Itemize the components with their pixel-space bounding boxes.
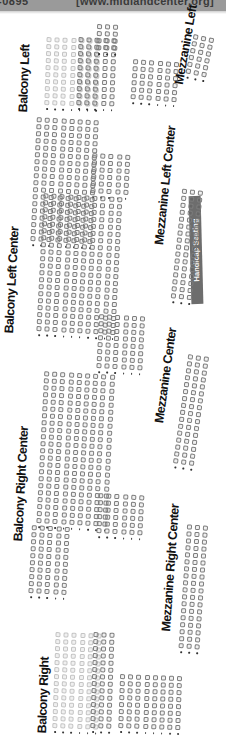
seat[interactable] (115, 329, 120, 334)
seat[interactable] (67, 208, 72, 213)
seat[interactable] (59, 153, 64, 158)
seat[interactable] (143, 724, 148, 729)
seat[interactable] (55, 547, 60, 552)
seat[interactable] (62, 59, 67, 64)
seat[interactable] (148, 81, 153, 86)
seat[interactable] (197, 204, 202, 209)
seat[interactable] (87, 294, 92, 299)
seat[interactable] (54, 491, 59, 496)
seat[interactable] (48, 526, 53, 531)
seat[interactable] (193, 560, 198, 565)
seat[interactable] (123, 183, 128, 188)
seat[interactable] (74, 237, 79, 242)
seat[interactable] (43, 146, 48, 151)
seat[interactable] (106, 507, 111, 512)
seat[interactable] (50, 215, 55, 220)
seat[interactable] (44, 100, 49, 105)
seat[interactable] (97, 349, 102, 354)
seat[interactable] (45, 504, 50, 509)
seat[interactable] (144, 696, 149, 701)
seat[interactable] (69, 373, 74, 378)
seat[interactable] (131, 330, 136, 335)
seat[interactable] (59, 201, 64, 206)
seat[interactable] (60, 723, 65, 728)
seat[interactable] (200, 574, 205, 579)
seat[interactable] (80, 464, 85, 469)
seat[interactable] (81, 443, 86, 448)
seat[interactable] (194, 532, 199, 537)
seat[interactable] (92, 388, 97, 393)
seat[interactable] (61, 702, 66, 707)
seat[interactable] (97, 273, 102, 278)
seat[interactable] (45, 312, 50, 317)
seat[interactable] (91, 174, 96, 179)
seat[interactable] (69, 133, 74, 138)
seat[interactable] (93, 632, 98, 637)
seat[interactable] (90, 437, 95, 442)
seat[interactable] (56, 526, 61, 531)
seat[interactable] (41, 181, 46, 186)
seat[interactable] (47, 285, 52, 290)
seat[interactable] (50, 181, 55, 186)
seat[interactable] (63, 639, 68, 644)
seat[interactable] (87, 301, 92, 306)
seat[interactable] (59, 208, 64, 213)
seat[interactable] (180, 210, 185, 215)
seat[interactable] (152, 682, 157, 687)
seat[interactable] (99, 409, 104, 414)
seat[interactable] (70, 506, 75, 511)
seat[interactable] (105, 459, 110, 464)
seat[interactable] (85, 134, 90, 139)
seat[interactable] (97, 514, 102, 519)
seat[interactable] (85, 86, 90, 91)
seat[interactable] (106, 253, 111, 258)
seat[interactable] (34, 159, 39, 164)
seat[interactable] (43, 200, 48, 205)
seat[interactable] (76, 147, 81, 152)
seat[interactable] (63, 562, 68, 567)
seat[interactable] (78, 307, 83, 312)
seat[interactable] (144, 703, 149, 708)
seat[interactable] (63, 484, 68, 489)
seat[interactable] (183, 259, 188, 264)
seat[interactable] (78, 696, 83, 701)
seat[interactable] (107, 417, 112, 422)
seat[interactable] (53, 505, 58, 510)
seat[interactable] (202, 539, 207, 544)
seat[interactable] (196, 355, 202, 361)
seat[interactable] (140, 316, 145, 321)
seat[interactable] (74, 422, 79, 427)
seat[interactable] (173, 69, 178, 74)
seat[interactable] (104, 45, 109, 50)
seat[interactable] (93, 653, 98, 658)
seat[interactable] (160, 710, 165, 715)
seat[interactable] (69, 101, 74, 106)
seat[interactable] (77, 79, 82, 84)
seat[interactable] (29, 581, 34, 586)
seat[interactable] (32, 201, 37, 206)
seat[interactable] (55, 484, 60, 489)
seat[interactable] (52, 194, 57, 199)
seat[interactable] (45, 511, 50, 516)
seat[interactable] (51, 208, 56, 213)
seat[interactable] (77, 717, 82, 722)
seat[interactable] (57, 236, 62, 241)
seat[interactable] (202, 546, 207, 551)
seat[interactable] (113, 25, 118, 30)
seat[interactable] (119, 688, 124, 693)
seat[interactable] (112, 288, 117, 293)
seat[interactable] (139, 330, 144, 335)
seat[interactable] (180, 280, 185, 285)
seat[interactable] (78, 37, 83, 42)
seat[interactable] (191, 260, 196, 265)
seat[interactable] (54, 44, 59, 49)
seat[interactable] (121, 522, 126, 527)
seat[interactable] (95, 294, 100, 299)
seat[interactable] (39, 469, 44, 474)
seat[interactable] (107, 182, 112, 187)
seat[interactable] (99, 181, 104, 186)
seat[interactable] (186, 368, 192, 374)
seat[interactable] (70, 675, 75, 680)
seat[interactable] (127, 716, 132, 721)
seat[interactable] (196, 211, 201, 216)
